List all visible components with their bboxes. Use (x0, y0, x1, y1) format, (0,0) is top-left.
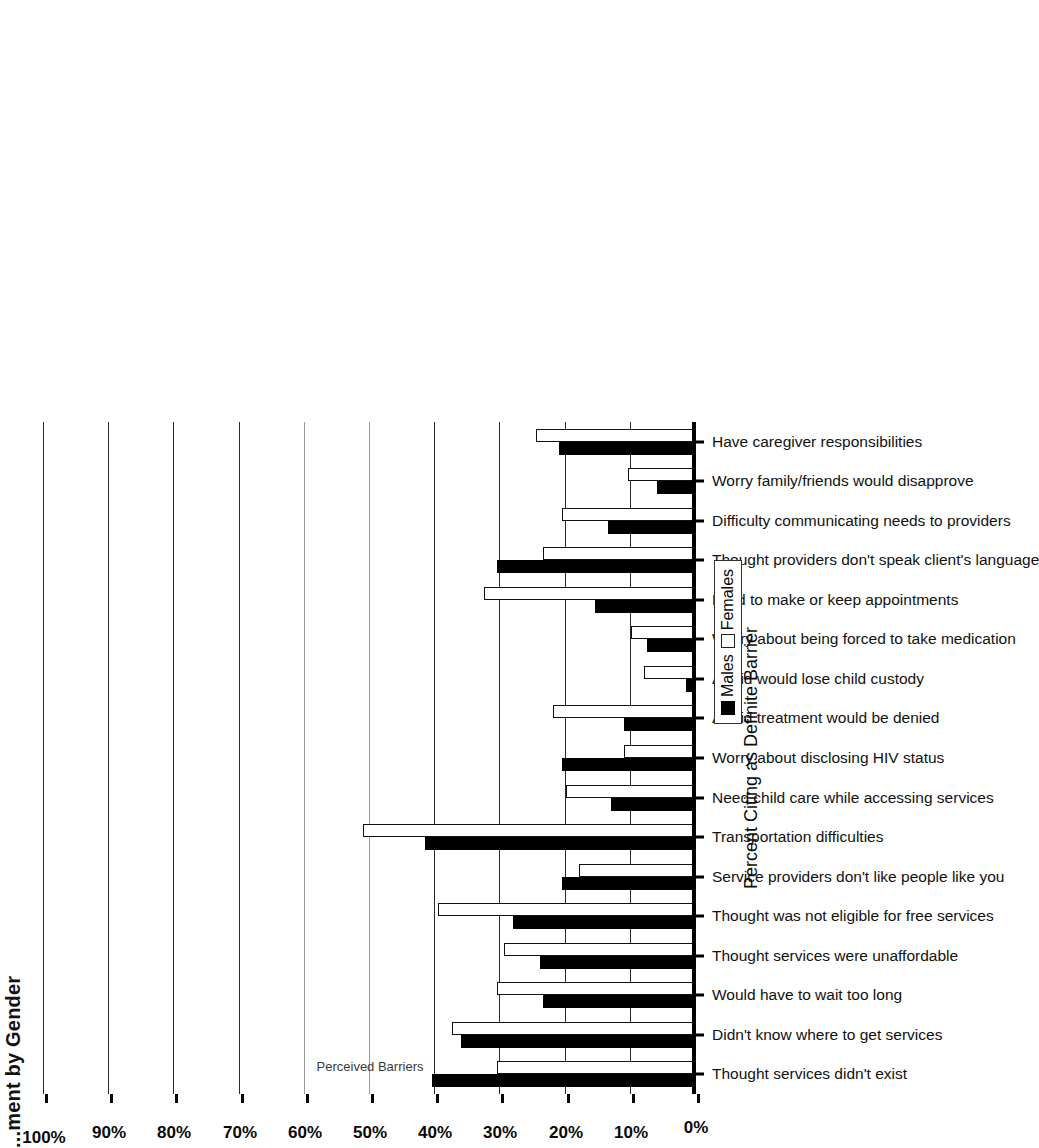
category-tick (696, 994, 704, 997)
category-label: Hard to make or keep appointments (712, 591, 958, 609)
axis-tick-label: 60% (288, 1123, 322, 1143)
bar-males (624, 718, 696, 731)
bar-females (628, 468, 696, 481)
bar-females (579, 864, 696, 877)
bar-females (484, 587, 696, 600)
bar-males (608, 521, 696, 534)
axis-tick-label: 10% (614, 1123, 648, 1143)
category-tick (696, 796, 704, 799)
bar-females (562, 508, 696, 521)
bar-group: Have caregiver responsibilities (44, 422, 696, 462)
bar-group: Didn't know where to get services (44, 1015, 696, 1055)
category-tick (696, 480, 704, 483)
legend-item-females: Females (719, 569, 737, 648)
bar-group: Thought was not eligible for free servic… (44, 896, 696, 936)
bar-males (461, 1035, 696, 1048)
axis-tick-label: 90% (92, 1123, 126, 1143)
bar-females (504, 943, 696, 956)
category-tick (696, 598, 704, 601)
x-axis-title: Percent Citing as Definite Barrier (741, 627, 762, 889)
bar-group: Worry about disclosing HIV status (44, 738, 696, 778)
category-label: Thought was not eligible for free servic… (712, 907, 994, 925)
bar-females (566, 785, 696, 798)
bar-females (631, 626, 696, 639)
bar-females (452, 1022, 697, 1035)
category-tick (696, 519, 704, 522)
axis-tick-label: 70% (223, 1123, 257, 1143)
axis-tick (632, 1094, 635, 1103)
axis-tick (501, 1094, 504, 1103)
axis-tick (175, 1094, 178, 1103)
bar-males (540, 956, 696, 969)
bar-females (644, 666, 696, 679)
bar-group: Need child care while accessing services (44, 778, 696, 818)
category-label: Didn't know where to get services (712, 1026, 942, 1044)
category-label: Worry family/friends would disapprove (712, 472, 974, 490)
bar-males (562, 758, 696, 771)
bar-females (553, 705, 696, 718)
legend-label-males: Males (719, 654, 737, 697)
bar-males (513, 916, 696, 929)
bar-group: Thought providers don't speak client's l… (44, 541, 696, 581)
category-tick (696, 1033, 704, 1036)
bar-group: Afraid would lose child custody (44, 659, 696, 699)
axis-tick (436, 1094, 439, 1103)
axis-tick-label: 100% (22, 1128, 65, 1148)
category-label: Thought services were unaffordable (712, 947, 958, 965)
axis-tick (306, 1094, 309, 1103)
legend-swatch-males-icon (721, 701, 735, 715)
chart-title: ...ment by Gender (2, 976, 25, 1148)
bar-males (543, 995, 696, 1008)
category-tick (696, 756, 704, 759)
bar-group: Would have to wait too long (44, 975, 696, 1015)
axis-tick (697, 1094, 700, 1103)
bar-males (562, 877, 696, 890)
bar-group: Thought services were unaffordable (44, 936, 696, 976)
category-label: Would have to wait too long (712, 986, 902, 1004)
plot-area: Thought services didn't existDidn't know… (44, 422, 696, 1094)
bar-females (363, 824, 696, 837)
category-tick (696, 440, 704, 443)
category-tick (696, 717, 704, 720)
axis-tick (110, 1094, 113, 1103)
axis-tick-label: 0% (684, 1118, 709, 1138)
bar-males (647, 639, 696, 652)
bar-males (425, 837, 696, 850)
category-label: Difficulty communicating needs to provid… (712, 512, 1011, 530)
bar-group: Hard to make or keep appointments (44, 580, 696, 620)
bar-groups: Thought services didn't existDidn't know… (44, 422, 696, 1094)
axis-tick-label: 20% (549, 1123, 583, 1143)
bar-group: Worry family/friends would disapprove (44, 462, 696, 502)
axis-tick (371, 1094, 374, 1103)
bar-females (497, 982, 696, 995)
category-tick (696, 559, 704, 562)
bar-males (595, 600, 696, 613)
bar-group: Worry about being forced to take medicat… (44, 620, 696, 660)
axis-tick (567, 1094, 570, 1103)
bar-females (543, 547, 696, 560)
axis-tick-label: 50% (353, 1123, 387, 1143)
category-label: Thought services didn't exist (712, 1065, 907, 1083)
bar-females (497, 1061, 696, 1074)
bar-males (497, 560, 696, 573)
category-tick (696, 1073, 704, 1076)
category-tick (696, 915, 704, 918)
bar-group: Afraid treatment would be denied (44, 699, 696, 739)
axis-tick (45, 1094, 48, 1103)
value-axis-line (692, 422, 696, 1094)
bar-females (624, 745, 696, 758)
legend: Males Females (714, 560, 742, 724)
bar-females (536, 429, 696, 442)
category-tick (696, 836, 704, 839)
bar-group: Transportation difficulties (44, 817, 696, 857)
axis-tick-label: 40% (418, 1123, 452, 1143)
bar-males (657, 481, 696, 494)
bar-group: Service providers don't like people like… (44, 857, 696, 897)
legend-label-females: Females (719, 569, 737, 630)
category-tick (696, 875, 704, 878)
category-label: Thought providers don't speak client's l… (712, 551, 1039, 569)
category-tick (696, 954, 704, 957)
axis-tick (241, 1094, 244, 1103)
